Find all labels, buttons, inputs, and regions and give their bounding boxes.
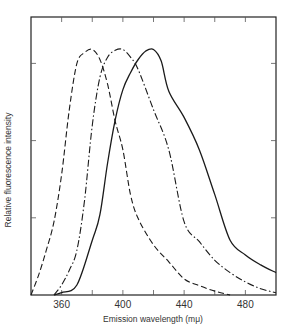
axis-ticks — [31, 17, 276, 295]
plot-frame — [31, 17, 276, 295]
x-tick-label: 360 — [53, 299, 70, 310]
x-tick-labels: 360400440480 — [53, 299, 254, 310]
y-axis-label: Relative fluorescence intensity — [3, 112, 13, 228]
x-axis-label: Emission wavelength (mμ) — [103, 314, 203, 324]
series-line-solid — [54, 49, 276, 295]
x-tick-label: 480 — [237, 299, 254, 310]
x-tick-label: 400 — [115, 299, 132, 310]
x-tick-label: 440 — [176, 299, 193, 310]
series-line-dashed — [31, 49, 230, 295]
fluorescence-chart: 360400440480 Emission wavelength (mμ) Re… — [0, 0, 290, 330]
data-curves — [31, 49, 276, 295]
